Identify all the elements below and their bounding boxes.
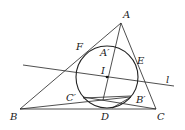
label-l: l bbox=[166, 74, 169, 85]
label-a: A bbox=[122, 9, 130, 20]
label-d: D bbox=[100, 111, 109, 122]
center-point-i bbox=[106, 76, 109, 79]
label-e: E bbox=[136, 55, 145, 66]
label-c: C bbox=[157, 111, 165, 122]
label-b: B bbox=[9, 111, 17, 122]
line-l bbox=[23, 65, 174, 86]
geometry-diagram: A B C D E F I A′ C′ B′ l bbox=[0, 0, 185, 130]
label-c-prime: C′ bbox=[66, 92, 77, 103]
segment-a-d bbox=[103, 23, 121, 100]
label-f: F bbox=[75, 41, 84, 52]
label-b-prime: B′ bbox=[135, 94, 146, 105]
label-i: I bbox=[100, 65, 106, 76]
label-a-prime: A′ bbox=[99, 47, 110, 58]
